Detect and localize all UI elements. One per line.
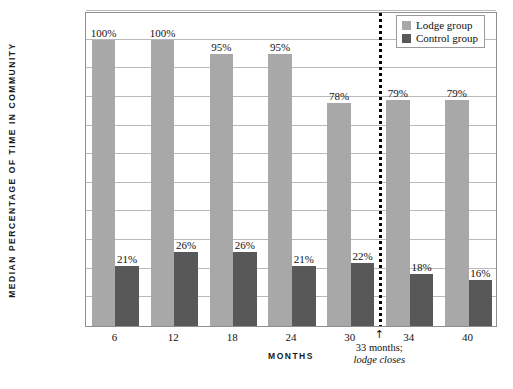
up-arrow-icon: ↑ (324, 330, 434, 340)
bar-lodge-24[interactable]: 95% (268, 54, 292, 326)
bar-value-label-lodge-6: 100% (91, 27, 117, 39)
x-axis-tick-labels: 6121824303440 (85, 331, 497, 347)
bar-value-label-lodge-34: 79% (388, 87, 408, 99)
bar-group-6-months: 100%21% (86, 13, 145, 326)
legend-item-lodge-group[interactable]: Lodge group (402, 19, 478, 31)
legend-swatch-icon-control (402, 34, 411, 43)
bar-group-18-months: 95%26% (204, 13, 263, 326)
bar-value-label-control-40: 16% (470, 267, 490, 279)
legend-item-control-group[interactable]: Control group (402, 32, 478, 44)
bar-value-label-control-18: 26% (235, 239, 255, 251)
bar-control-24[interactable]: 21% (292, 266, 316, 326)
bar-lodge-6[interactable]: 100% (92, 40, 116, 326)
x-tick-24: 24 (286, 331, 297, 343)
x-tick-40: 40 (462, 331, 473, 343)
bar-lodge-30[interactable]: 78% (327, 103, 351, 326)
bar-value-label-lodge-18: 95% (211, 41, 231, 53)
x-tick-6: 6 (112, 331, 118, 343)
bar-value-label-control-6: 21% (117, 253, 137, 265)
bar-control-40[interactable]: 16% (469, 280, 493, 326)
bar-lodge-34[interactable]: 79% (386, 100, 410, 326)
legend-label-control: Control group (416, 32, 478, 44)
lodge-closes-annotation: ↑ 33 months; lodge closes (324, 330, 434, 366)
bar-control-34[interactable]: 18% (410, 274, 434, 326)
bar-value-label-lodge-40: 79% (447, 87, 467, 99)
bar-group-30-months: 78%22% (321, 13, 380, 326)
bar-group-24-months: 95%21% (263, 13, 322, 326)
bar-group-34-months: 79%18% (380, 13, 439, 326)
x-axis-title: MONTHS (85, 351, 497, 361)
bar-lodge-18[interactable]: 95% (210, 54, 234, 326)
bar-group-40-months: 79%16% (439, 13, 498, 326)
bar-value-label-control-12: 26% (176, 239, 196, 251)
bar-lodge-12[interactable]: 100% (151, 40, 175, 326)
bar-control-12[interactable]: 26% (174, 252, 198, 326)
bar-lodge-40[interactable]: 79% (445, 100, 469, 326)
bar-value-label-control-34: 18% (411, 261, 431, 273)
bar-value-label-lodge-12: 100% (150, 27, 176, 39)
gridline-110 (86, 10, 496, 11)
chart-root: MEDIAN PERCENTAGE OF TIME IN COMMUNITY 1… (0, 0, 513, 389)
bar-group-12-months: 100%26% (145, 13, 204, 326)
annotation-line-1: 33 months; (324, 342, 434, 354)
bar-value-label-lodge-30: 78% (329, 90, 349, 102)
legend: Lodge group Control group (396, 15, 485, 48)
bar-value-label-lodge-24: 95% (270, 41, 290, 53)
x-tick-12: 12 (168, 331, 179, 343)
y-axis-title-container: MEDIAN PERCENTAGE OF TIME IN COMMUNITY (0, 0, 24, 340)
bar-control-6[interactable]: 21% (115, 266, 139, 326)
legend-label-lodge: Lodge group (416, 19, 473, 31)
y-axis-title: MEDIAN PERCENTAGE OF TIME IN COMMUNITY (7, 42, 17, 298)
plot-area: 100%21%100%26%95%26%95%21%78%22%79%18%79… (85, 12, 497, 327)
bar-control-18[interactable]: 26% (233, 252, 257, 326)
legend-swatch-icon-lodge (402, 21, 411, 30)
bar-value-label-control-24: 21% (294, 253, 314, 265)
bars-layer: 100%21%100%26%95%26%95%21%78%22%79%18%79… (86, 13, 496, 326)
bar-control-30[interactable]: 22% (351, 263, 375, 326)
annotation-line-2: lodge closes (324, 354, 434, 366)
bar-value-label-control-30: 22% (353, 250, 373, 262)
lodge-closes-divider-line (379, 13, 382, 326)
x-tick-18: 18 (227, 331, 238, 343)
